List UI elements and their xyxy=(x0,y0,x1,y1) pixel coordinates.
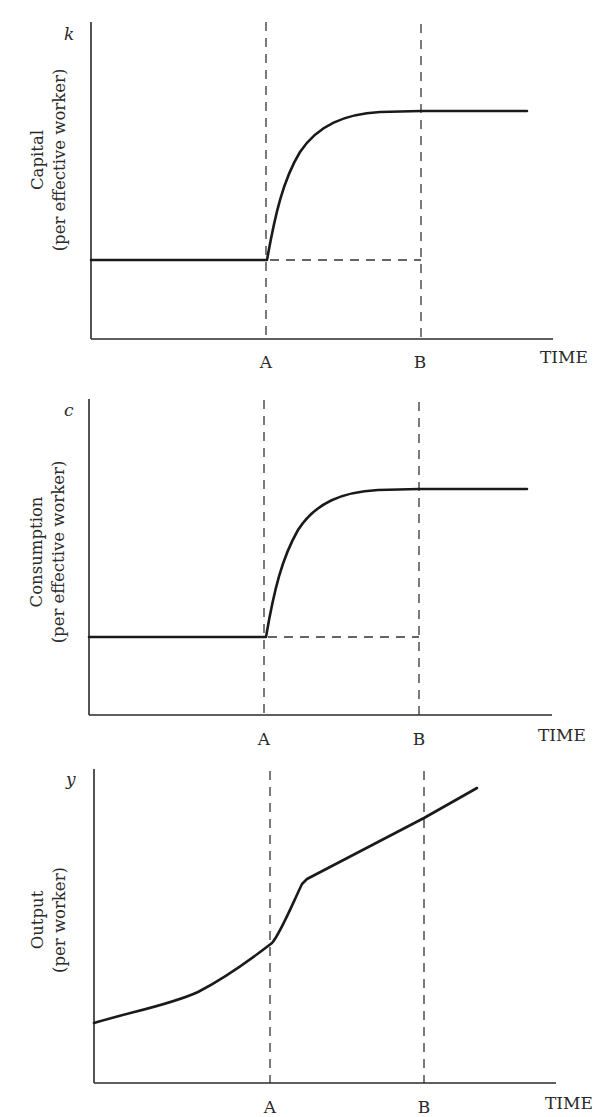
output-curve xyxy=(94,788,477,1023)
y-axis-label: Consumption xyxy=(27,496,46,607)
panel-consumption: c Consumption (per effective worker) A B… xyxy=(27,399,586,749)
y-axis-label: Capital xyxy=(28,130,47,190)
y-axis-sublabel: (per effective worker) xyxy=(50,69,69,252)
marker-label-b: B xyxy=(418,1097,431,1117)
marker-label-a: A xyxy=(263,1097,277,1117)
y-variable-y: y xyxy=(65,769,76,789)
consumption-curve xyxy=(89,489,527,637)
y-variable-k: k xyxy=(64,24,74,44)
panel-output: y Output (per worker) A B TIME xyxy=(28,769,593,1117)
panel-capital: k Capital (per effective worker) A B TIM… xyxy=(28,22,588,372)
x-axis-label: TIME xyxy=(545,1093,593,1113)
figure-canvas: k Capital (per effective worker) A B TIM… xyxy=(0,0,608,1117)
y-axis-sublabel: (per worker) xyxy=(50,867,69,973)
marker-label-a: A xyxy=(257,729,271,749)
x-axis-label: TIME xyxy=(540,347,588,367)
marker-label-a: A xyxy=(259,352,273,372)
y-variable-c: c xyxy=(64,400,74,420)
y-axis-label: Output xyxy=(28,890,47,949)
marker-label-b: B xyxy=(413,729,426,749)
marker-label-b: B xyxy=(414,352,427,372)
y-axis-sublabel: (per effective worker) xyxy=(49,461,68,644)
x-axis-label: TIME xyxy=(538,725,586,745)
capital-curve xyxy=(91,111,527,260)
